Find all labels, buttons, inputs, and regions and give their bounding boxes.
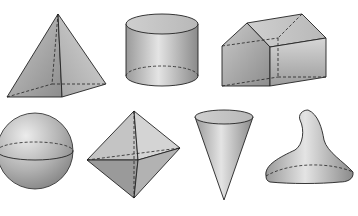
octahedron-shape [87, 111, 180, 198]
cone-shape [195, 110, 253, 200]
cylinder-shape [126, 14, 198, 86]
prism-shape [222, 14, 326, 86]
drop-shape [266, 110, 353, 184]
solids-diagram [0, 0, 358, 216]
pyramid-shape [7, 14, 106, 97]
sphere-shape [0, 113, 73, 189]
